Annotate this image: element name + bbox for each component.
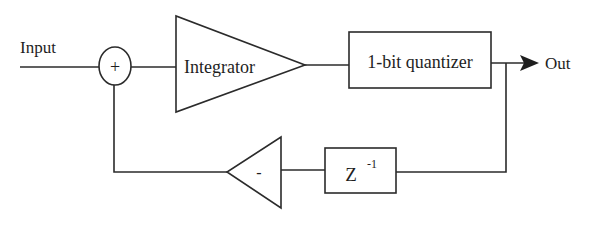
output-label: Out: [545, 54, 571, 73]
summer-plus-icon: +: [110, 57, 120, 77]
delay-exponent-label: -1: [367, 157, 377, 171]
summing-junction: +: [99, 47, 131, 85]
input-label: Input: [20, 38, 56, 57]
inverter-minus-icon: -: [256, 164, 261, 181]
inverter-block: -: [227, 137, 281, 208]
integrator-label: Integrator: [184, 57, 255, 77]
integrator-block: Integrator: [176, 16, 305, 112]
quantizer-block: 1-bit quantizer: [349, 32, 491, 88]
inverter-triangle: [227, 137, 281, 208]
delay-base-label: Z: [345, 164, 357, 185]
delay-box: [325, 148, 396, 193]
sigma-delta-diagram: Input + Integrator 1-bit quantizer Out: [0, 0, 598, 226]
delay-block: Z -1: [325, 148, 396, 193]
quantizer-label: 1-bit quantizer: [367, 52, 472, 72]
